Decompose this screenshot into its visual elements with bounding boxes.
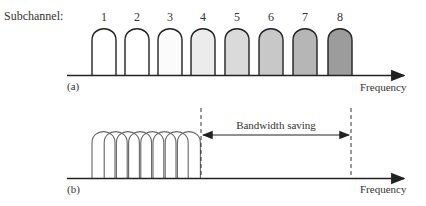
subchannel-2: 2 — [125, 10, 149, 75]
subchannel-group: 12345678 — [92, 10, 352, 75]
subchannel-shape — [328, 29, 352, 75]
subchannel-5: 5 — [225, 10, 249, 75]
overlapped-subchannel-shape — [129, 132, 152, 178]
subchannel-shape — [259, 29, 283, 75]
subchannel-number: 6 — [268, 10, 274, 24]
subchannel-3: 3 — [158, 10, 182, 75]
overlapped-subchannel-shape — [165, 132, 188, 178]
subchannel-6: 6 — [259, 10, 283, 75]
subchannel-4: 4 — [191, 10, 215, 75]
subchannel-shape — [158, 29, 182, 75]
subchannel-7: 7 — [293, 10, 317, 75]
subchannel-number: 7 — [302, 10, 308, 24]
overlapped-subchannel-shape — [177, 132, 200, 178]
frequency-axis-label-b: Frequency — [360, 183, 407, 195]
bandwidth-saving-label: Bandwidth saving — [236, 119, 316, 131]
overlapped-subchannel-shape — [116, 132, 139, 178]
frequency-axis-label-a: Frequency — [360, 81, 407, 93]
panel-b: Bandwidth saving (b) Frequency — [67, 108, 407, 196]
subchannel-number: 5 — [234, 10, 240, 24]
panel-a: Subchannel: 12345678 (a) Frequency — [4, 9, 407, 93]
subchannel-1: 1 — [92, 10, 116, 75]
subchannel-shape — [125, 29, 149, 75]
subchannel-shape — [92, 29, 116, 75]
subchannel-row-title: Subchannel: — [4, 9, 63, 23]
subchannel-number: 2 — [134, 10, 140, 24]
ofdm-subchannel-diagram: Subchannel: 12345678 (a) Frequency Bandw… — [0, 0, 426, 206]
overlapped-subchannels — [92, 132, 200, 178]
overlapped-subchannel-shape — [92, 132, 115, 178]
subchannel-number: 4 — [200, 10, 206, 24]
panel-a-label: (a) — [67, 80, 80, 93]
subchannel-number: 3 — [167, 10, 173, 24]
subchannel-shape — [225, 29, 249, 75]
subchannel-shape — [191, 29, 215, 75]
overlapped-subchannel-shape — [153, 132, 176, 178]
subchannel-number: 1 — [101, 10, 107, 24]
subchannel-8: 8 — [328, 10, 352, 75]
panel-b-label: (b) — [67, 183, 80, 196]
subchannel-number: 8 — [337, 10, 343, 24]
subchannel-shape — [293, 29, 317, 75]
overlapped-subchannel-shape — [104, 132, 127, 178]
overlapped-subchannel-shape — [141, 132, 164, 178]
